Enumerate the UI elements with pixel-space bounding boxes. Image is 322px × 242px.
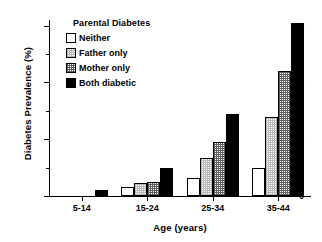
x-tick-label: 5-14 bbox=[73, 204, 91, 213]
bar bbox=[278, 71, 291, 196]
bar bbox=[147, 182, 160, 196]
legend-item: Mother only bbox=[66, 63, 186, 73]
legend-item-label: Father only bbox=[79, 49, 128, 58]
x-tick bbox=[147, 197, 148, 201]
legend-swatch-icon bbox=[66, 63, 76, 73]
y-axis-title: Diabetes Prevalence (%) bbox=[22, 14, 33, 194]
legend-entries: NeitherFather onlyMother onlyBoth diabet… bbox=[66, 33, 186, 88]
chart-figure: Diabetes Prevalence (%) Age (years) 0204… bbox=[0, 0, 322, 242]
bar bbox=[121, 187, 134, 196]
x-tick-label: 15-24 bbox=[136, 204, 159, 213]
bar bbox=[291, 23, 304, 196]
legend-swatch-icon bbox=[66, 48, 76, 58]
chart-legend: Parental Diabetes NeitherFather onlyMoth… bbox=[66, 18, 186, 93]
legend-item: Father only bbox=[66, 48, 186, 58]
legend-title: Parental Diabetes bbox=[73, 18, 186, 28]
x-axis-line bbox=[49, 196, 311, 197]
bar bbox=[226, 114, 239, 196]
bar bbox=[200, 158, 213, 196]
legend-item-label: Neither bbox=[79, 34, 110, 43]
legend-swatch-icon bbox=[66, 33, 76, 43]
y-tick bbox=[44, 196, 49, 197]
bar bbox=[187, 178, 200, 196]
legend-item-label: Mother only bbox=[79, 64, 130, 73]
x-axis-title: Age (years) bbox=[48, 222, 312, 233]
bar bbox=[95, 190, 108, 196]
bar bbox=[265, 117, 278, 196]
x-tick-label: 35-44 bbox=[267, 204, 290, 213]
x-tick-label: 25-34 bbox=[201, 204, 224, 213]
legend-item-label: Both diabetic bbox=[79, 79, 136, 88]
bar bbox=[134, 183, 147, 196]
legend-swatch-icon bbox=[66, 78, 76, 88]
bar bbox=[252, 168, 265, 196]
legend-item: Neither bbox=[66, 33, 186, 43]
x-tick bbox=[213, 197, 214, 201]
bar bbox=[160, 168, 173, 196]
bar bbox=[213, 142, 226, 196]
legend-item: Both diabetic bbox=[66, 78, 186, 88]
x-tick bbox=[278, 197, 279, 201]
x-tick bbox=[82, 197, 83, 201]
